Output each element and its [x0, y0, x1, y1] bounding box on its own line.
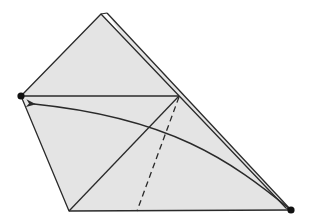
back-layer-top	[101, 13, 107, 14]
paper-outline	[21, 14, 291, 211]
reference-dot-right	[287, 206, 294, 213]
diagram-canvas	[0, 0, 309, 222]
reference-dot-left	[17, 92, 24, 99]
origami-diagram	[0, 0, 309, 222]
